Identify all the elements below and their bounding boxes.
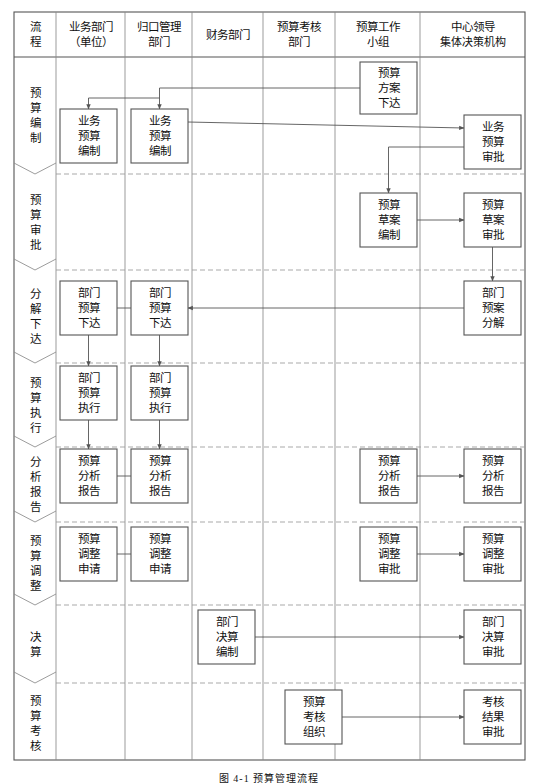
svg-text:下: 下 (30, 318, 41, 330)
process-box-label: 编制 (216, 645, 238, 658)
process-box[interactable]: 业务预算编制 (131, 109, 188, 163)
process-box-label: 审批 (482, 228, 505, 241)
process-box-label: 决算 (216, 630, 238, 643)
node-layer: 预算方案下达业务预算编制业务预算编制业务预算审批预算草案编制预算草案审批部门预案… (60, 62, 521, 744)
stage-label-settlement: 决算 (30, 631, 42, 658)
stage-label-compile: 预算编制 (30, 87, 42, 144)
svg-text:流: 流 (30, 20, 42, 33)
process-box-label: 报告 (78, 484, 100, 497)
svg-text:算: 算 (30, 709, 41, 722)
process-box-label: 预算 (149, 386, 171, 399)
svg-text:执: 执 (30, 406, 42, 419)
svg-text:解: 解 (30, 302, 42, 315)
column-header-central_mgmt_dept: 归口管理部门 (137, 20, 182, 48)
svg-text:析: 析 (30, 470, 41, 483)
process-box-label: 执行 (78, 401, 100, 414)
process-box[interactable]: 预算草案审批 (464, 193, 521, 247)
svg-text:预: 预 (30, 695, 42, 707)
process-box[interactable]: 预算调整申请 (131, 527, 188, 581)
stage-column: 预算编制预算审批分解下达预算执行分析报告预算调整决算预算考核 (14, 87, 56, 752)
process-box[interactable]: 部门预算下达 (131, 281, 188, 335)
process-box-label: 审批 (482, 725, 505, 738)
process-box-label: 调整 (149, 547, 172, 560)
process-box-label: 预算 (378, 66, 400, 79)
process-box[interactable]: 预算分析报告 (60, 449, 117, 503)
process-box-label: 考核 (303, 710, 326, 723)
process-box[interactable]: 预算分析报告 (131, 449, 188, 503)
process-box[interactable]: 部门预案分解 (464, 281, 521, 335)
process-box-label: 分析 (378, 469, 400, 482)
process-box[interactable]: 部门预算执行 (60, 366, 117, 420)
process-box[interactable]: 预算调整审批 (360, 527, 417, 581)
column-header-budget_review_dept: 预算考核部门 (277, 20, 322, 48)
process-box-label: 预算 (149, 129, 171, 142)
process-box[interactable]: 预算考核组织 (285, 690, 342, 744)
process-box-label: 编制 (78, 144, 100, 157)
stage-label-breakdown: 分解下达 (30, 288, 42, 345)
svg-text:调: 调 (30, 565, 41, 577)
process-box-label: 业务 (149, 114, 172, 127)
svg-text:报: 报 (30, 485, 42, 498)
process-box[interactable]: 预算方案下达 (360, 62, 417, 114)
process-box-label: 预案 (482, 301, 505, 314)
svg-text:业务部门: 业务部门 (69, 20, 113, 33)
process-box-label: 预算 (78, 301, 100, 314)
process-box[interactable]: 部门决算审批 (464, 610, 521, 664)
process-box-label: 报告 (149, 484, 171, 497)
process-box-label: 部门 (78, 371, 100, 384)
process-box-label: 预算 (482, 454, 504, 467)
svg-text:预算工作: 预算工作 (356, 20, 401, 33)
process-box-label: 下达 (149, 316, 172, 329)
svg-text:编: 编 (30, 116, 41, 129)
process-box[interactable]: 业务预算审批 (464, 115, 521, 169)
process-box-label: 部门 (216, 615, 238, 628)
process-box-label: 结果 (482, 711, 505, 723)
process-box-label: 分析 (482, 469, 504, 482)
process-box-label: 草案 (378, 213, 401, 226)
process-box[interactable]: 预算草案编制 (360, 193, 417, 247)
process-box[interactable]: 考核结果审批 (464, 690, 521, 744)
process-box[interactable]: 预算调整申请 (60, 527, 117, 581)
process-box[interactable]: 部门决算编制 (198, 610, 255, 664)
svg-text:算: 算 (30, 549, 41, 562)
figure-caption: 图 4-1 预算管理流程 (0, 770, 538, 784)
svg-text:算: 算 (30, 208, 41, 221)
svg-text:核: 核 (30, 739, 42, 752)
column-header-business_dept: 业务部门（单位） (69, 20, 113, 48)
process-box[interactable]: 预算调整审批 (464, 527, 521, 581)
process-box[interactable]: 预算分析报告 (464, 449, 521, 503)
svg-text:制: 制 (30, 132, 41, 144)
svg-text:考: 考 (30, 725, 41, 737)
process-box[interactable]: 部门预算下达 (60, 281, 117, 335)
process-box-label: 预算 (378, 532, 400, 545)
process-box-label: 部门 (149, 286, 171, 299)
process-box-label: 预算 (378, 198, 400, 211)
column-header-finance_dept: 财务部门 (206, 28, 250, 41)
process-box-label: 执行 (149, 401, 171, 414)
header-layer: 流程业务部门（单位）归口管理部门财务部门预算考核部门预算工作小组中心领导集体决策… (30, 20, 506, 48)
process-box-label: 组织 (303, 725, 325, 738)
stage-label-execute: 预算执行 (30, 377, 42, 434)
process-box-label: 预算 (482, 135, 504, 148)
column-header-budget_work_group: 预算工作小组 (356, 20, 401, 48)
svg-text:部门: 部门 (148, 35, 170, 48)
svg-text:程: 程 (30, 36, 42, 48)
svg-text:集体决策机构: 集体决策机构 (440, 35, 506, 48)
process-box-label: 预算 (78, 129, 100, 142)
process-box-label: 申请 (78, 563, 101, 575)
process-box-label: 预算 (303, 695, 325, 708)
stage-label-approve: 预算审批 (30, 194, 42, 251)
stage-label-assessment: 预算考核 (30, 695, 42, 752)
process-box-label: 报告 (378, 484, 400, 497)
svg-text:审: 审 (30, 223, 41, 236)
flowchart-canvas: 预算编制预算审批分解下达预算执行分析报告预算调整决算预算考核 预算方案下达业务预… (0, 0, 538, 784)
process-box[interactable]: 预算分析报告 (360, 449, 417, 503)
stage-label-analysis: 分析报告 (30, 456, 42, 513)
process-box-label: 审批 (482, 150, 505, 163)
svg-text:批: 批 (30, 238, 42, 251)
svg-text:分: 分 (30, 456, 42, 468)
process-box-label: 预算 (78, 386, 100, 399)
process-box[interactable]: 部门预算执行 (131, 366, 188, 420)
process-box-label: 业务 (78, 114, 101, 127)
process-box[interactable]: 业务预算编制 (60, 109, 117, 163)
